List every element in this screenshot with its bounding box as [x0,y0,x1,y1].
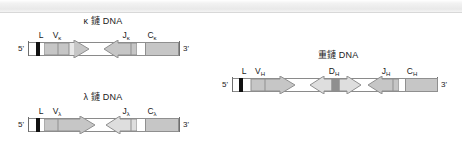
segment-label-heavy-L: L [238,66,250,76]
segment-label-kappa-V: Vκ [47,30,67,40]
three-prime-tick-lambda [179,117,180,132]
three-prime-tick-kappa [179,41,180,56]
three-prime-label-lambda: 3' [183,120,189,129]
segment-heavy-C [405,78,438,92]
segment-lambda-J [106,116,138,134]
five-prime-label-heavy: 5' [222,80,228,89]
segment-label-heavy-V: VH [250,66,270,76]
segment-label-lambda-C: Cλ [143,106,161,116]
scan-top-band-edge [0,12,462,13]
segment-label-heavy-J: JH [377,66,395,76]
segment-kappa-J [104,40,138,58]
locus-lambda: λ 鏈 DNA L Vλ Jλ Cλ 5' 3' [18,90,188,138]
segment-lambda-V [44,116,96,134]
segment-label-lambda-V: Vλ [47,106,67,116]
segment-lambda-L [36,118,40,132]
segment-label-heavy-C: CH [402,66,422,76]
segment-label-kappa-L: L [35,30,47,40]
locus-kappa-title: κ 鏈 DNA [18,14,188,27]
locus-heavy-title: 重鏈 DNA [222,48,454,61]
three-prime-label-kappa: 3' [183,44,189,53]
five-prime-tick-kappa [28,41,29,56]
locus-kappa: κ 鏈 DNA L Vκ Jκ Cκ 5' 3' [18,14,188,62]
segment-kappa-V [44,40,90,58]
segment-kappa-L [36,42,40,56]
segment-kappa-C [145,42,179,56]
five-prime-tick-lambda [28,117,29,132]
segment-heavy-D [310,76,362,94]
five-prime-tick-heavy [232,77,233,92]
segment-label-lambda-L: L [35,106,47,116]
five-prime-label-kappa: 5' [18,44,24,53]
segment-heavy-L [239,78,243,92]
segment-label-kappa-J: Jκ [117,30,135,40]
segment-heavy-J [368,76,400,94]
segment-label-heavy-D: DH [324,66,344,76]
segment-label-lambda-J: Jλ [117,106,135,116]
segment-label-kappa-C: Cκ [143,30,161,40]
segment-heavy-V [246,76,296,94]
segment-lambda-C [145,118,179,132]
five-prime-label-lambda: 5' [18,120,24,129]
locus-heavy: 重鏈 DNA L VH DH JH CH 5' 3' [222,48,454,98]
three-prime-label-heavy: 3' [441,80,447,89]
locus-lambda-title: λ 鏈 DNA [18,90,188,103]
